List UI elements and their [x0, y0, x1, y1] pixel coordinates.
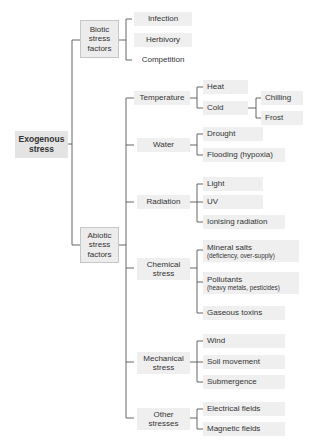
leaf-submergence: Submergence — [203, 375, 285, 389]
node-radiation: Radiation — [137, 195, 190, 209]
leaf-electrical-fields: Electrical fields — [203, 402, 285, 416]
node-chemical-stress: Chemicalstress — [137, 258, 190, 280]
leaf-uv: UV — [203, 195, 263, 209]
node-mechanical-stress: Mechanicalstress — [137, 352, 190, 374]
abiotic-label-line2: stress — [89, 240, 110, 250]
leaf-pollutants: Pollutants(heavy metals, pesticides) — [203, 272, 299, 294]
leaf-cold: Cold — [203, 101, 248, 115]
node-water: Water — [137, 138, 190, 152]
node-other-stresses: Otherstresses — [137, 408, 190, 430]
leaf-ionising-radiation: Ionising radiation — [203, 215, 285, 229]
abiotic-label-line3: factors — [87, 250, 111, 260]
leaf-competition: Competition — [134, 53, 192, 67]
leaf-gaseous-toxins: Gaseous toxins — [203, 306, 285, 320]
biotic-label-line2: stress — [89, 34, 110, 44]
biotic-label-line3: factors — [87, 44, 111, 54]
root-label-line2: stress — [29, 145, 54, 155]
leaf-magnetic-fields: Magnetic fields — [203, 422, 285, 436]
abiotic-label-line1: Abiotic — [87, 231, 111, 241]
node-abiotic-stress-factors: Abiotic stress factors — [80, 227, 119, 263]
leaf-flooding: Flooding (hypoxia) — [203, 148, 285, 162]
leaf-herbivory: Herbivory — [134, 33, 192, 47]
leaf-mineral-salts: Mineral salts(deficiency, over-supply) — [203, 240, 299, 262]
leaf-heat: Heat — [203, 80, 248, 94]
leaf-wind: Wind — [203, 334, 285, 348]
node-biotic-stress-factors: Biotic stress factors — [80, 20, 119, 58]
leaf-chilling: Chilling — [261, 91, 303, 105]
root-node-exogenous-stress: Exogenous stress — [15, 131, 68, 158]
leaf-infection: Infection — [134, 12, 192, 26]
node-temperature: Temperature — [134, 91, 190, 105]
leaf-drought: Drought — [203, 127, 263, 141]
biotic-label-line1: Biotic — [90, 25, 110, 35]
leaf-frost: Frost — [261, 111, 303, 125]
leaf-light: Light — [203, 177, 263, 191]
leaf-soil-movement: Soil movement — [203, 355, 285, 369]
